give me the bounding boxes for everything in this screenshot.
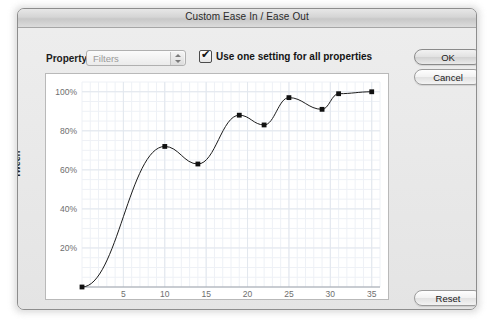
control-point-handle xyxy=(336,91,341,96)
y-axis-title: Tween xyxy=(17,151,22,178)
dialog-title: Custom Ease In / Ease Out xyxy=(18,11,476,22)
control-point-handle xyxy=(237,113,242,118)
chevron-down-icon xyxy=(175,60,181,63)
svg-text:100%: 100% xyxy=(55,87,77,97)
screenshot-root: Custom Ease In / Ease Out Property: Filt… xyxy=(0,0,493,327)
control-point-handle xyxy=(369,89,374,94)
svg-text:10: 10 xyxy=(160,289,170,299)
svg-text:20: 20 xyxy=(243,289,253,299)
svg-text:40%: 40% xyxy=(60,204,77,214)
svg-text:15: 15 xyxy=(201,289,211,299)
property-select-value: Filters xyxy=(93,53,119,64)
svg-text:20%: 20% xyxy=(60,243,77,253)
svg-text:30: 30 xyxy=(326,289,336,299)
use-one-setting-checkbox[interactable]: ✔ xyxy=(199,50,212,63)
control-point-handle xyxy=(195,162,200,167)
svg-text:5: 5 xyxy=(121,289,126,299)
custom-ease-dialog: Custom Ease In / Ease Out Property: Filt… xyxy=(17,8,477,310)
ok-button[interactable]: OK xyxy=(414,49,477,65)
chevron-up-icon xyxy=(175,54,181,57)
ease-curve-graph[interactable]: 20%40%60%80%100%5101520253035 xyxy=(45,73,389,300)
dialog-body: Property: Filters ✔ Use one setting for … xyxy=(18,28,476,310)
control-point-handle xyxy=(287,95,292,100)
control-point-handle xyxy=(80,285,85,290)
control-point-handle xyxy=(320,107,325,112)
use-one-setting-label: Use one setting for all properties xyxy=(216,51,372,62)
grid-minor xyxy=(82,82,380,287)
cancel-button[interactable]: Cancel xyxy=(414,69,477,85)
svg-text:35: 35 xyxy=(367,289,377,299)
reset-button[interactable]: Reset xyxy=(414,290,477,306)
svg-text:60%: 60% xyxy=(60,165,77,175)
svg-text:80%: 80% xyxy=(60,126,77,136)
property-stepper[interactable] xyxy=(170,52,184,65)
control-point-handle xyxy=(262,123,267,128)
property-label: Property: xyxy=(46,53,90,64)
control-point-handle xyxy=(162,144,167,149)
property-select[interactable]: Filters xyxy=(86,50,186,66)
dialog-titlebar[interactable]: Custom Ease In / Ease Out xyxy=(18,9,476,28)
checkmark-icon: ✔ xyxy=(201,49,210,60)
ease-curve-canvas[interactable]: 20%40%60%80%100%5101520253035 xyxy=(46,74,388,299)
use-one-setting-checkbox-row[interactable]: ✔ Use one setting for all properties xyxy=(199,50,372,63)
svg-text:25: 25 xyxy=(284,289,294,299)
